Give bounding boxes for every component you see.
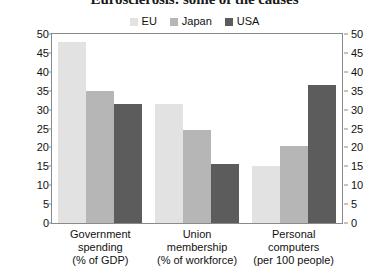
bar-japan-government-spending [86,91,114,223]
y-axis-tick-label-right: 5 [351,199,357,210]
x-label-line: Union [149,228,246,241]
y-axis-tick-mark-left [47,204,51,205]
x-label-line: (% of GDP) [52,254,149,267]
y-axis-tick-mark-left [47,34,51,35]
x-axis-label-government-spending: Government spending (% of GDP) [52,228,149,267]
bar-eu-government-spending [58,42,86,223]
y-axis-tick-mark-left [47,166,51,167]
y-axis-tick-label-right: 20 [351,142,363,153]
y-axis-tick-mark-right [344,71,348,72]
y-axis-tick-mark-right [344,90,348,91]
y-axis-tick-label-right: 15 [351,161,363,172]
y-axis-tick-mark-right [344,128,348,129]
y-axis-tick-label-right: 50 [351,29,363,40]
bar-usa-government-spending [114,104,142,223]
y-axis-tick-mark-left [47,128,51,129]
x-label-line: (per 100 people) [245,254,342,267]
bar-eu-union-membership [155,104,183,223]
bar-usa-union-membership [211,164,239,223]
x-axis-labels: Government spending (% of GDP) Union mem… [52,228,342,267]
x-axis-label-personal-computers: Personal computers (per 100 people) [245,228,342,267]
bar-eu-personal-computers [252,166,280,223]
y-axis-tick-label-right: 35 [351,85,363,96]
legend-item-japan: Japan [170,16,212,27]
y-axis-tick-label-right: 10 [351,180,363,191]
y-axis-tick-mark-left [47,52,51,53]
chart-legend: EU Japan USA [0,16,389,27]
x-label-line: Government [52,228,149,241]
page-title: Eurosclerosis: some of the causes [0,0,389,8]
y-axis-tick-label-right: 25 [351,123,363,134]
x-label-line: (% of workforce) [149,254,246,267]
legend-swatch-eu [130,18,138,26]
y-axis-tick-label-right: 30 [351,104,363,115]
y-axis-tick-mark-right [344,185,348,186]
legend-swatch-japan [170,18,178,26]
y-axis-tick-mark-right [344,109,348,110]
bar-group-government-spending [52,34,149,223]
x-label-line: membership [149,241,246,254]
y-axis-tick-label-right: 0 [351,218,357,229]
bar-group-personal-computers [245,34,342,223]
legend-label-eu: EU [142,16,157,27]
y-axis-tick-mark-left [47,147,51,148]
y-axis-tick-label-right: 45 [351,47,363,58]
y-axis-tick-mark-left [47,71,51,72]
x-label-line: computers [245,241,342,254]
y-axis-tick-mark-left [47,109,51,110]
y-axis-tick-mark-right [344,204,348,205]
y-axis-tick-mark-left [47,223,51,224]
x-label-line: spending [52,241,149,254]
legend-item-eu: EU [130,16,157,27]
bar-japan-union-membership [183,130,211,223]
bars-layer [52,34,342,223]
y-axis-tick-mark-right [344,223,348,224]
legend-label-usa: USA [237,16,260,27]
y-axis-tick-mark-right [344,147,348,148]
y-axis-tick-label-right: 40 [351,66,363,77]
bar-group-union-membership [149,34,246,223]
legend-item-usa: USA [225,16,260,27]
y-axis-tick-mark-left [47,185,51,186]
bar-japan-personal-computers [280,146,308,223]
y-axis-tick-mark-right [344,52,348,53]
legend-swatch-usa [225,18,233,26]
bar-usa-personal-computers [308,85,336,223]
x-axis-label-union-membership: Union membership (% of workforce) [149,228,246,267]
y-axis-tick-mark-right [344,166,348,167]
legend-label-japan: Japan [182,16,212,27]
x-label-line: Personal [245,228,342,241]
y-axis-tick-mark-left [47,90,51,91]
y-axis-tick-mark-right [344,34,348,35]
